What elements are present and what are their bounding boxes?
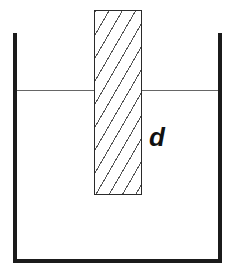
diagram-canvas: d — [0, 0, 234, 272]
hatched-rod — [94, 10, 142, 195]
depth-label: d — [149, 124, 165, 150]
